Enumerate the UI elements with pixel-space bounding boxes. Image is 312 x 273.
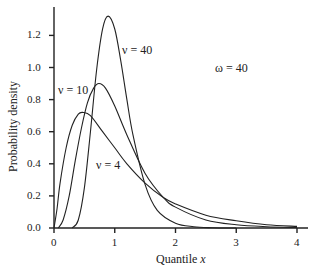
x-tick-label: 4	[294, 236, 300, 248]
y-tick-label: 0.6	[27, 125, 41, 137]
chart-plot	[0, 0, 312, 273]
y-axis-label: Probability density	[6, 72, 21, 182]
y-tick-label: 0.8	[27, 93, 41, 105]
label-nu-40: ν = 40	[122, 43, 152, 58]
y-tick-label: 1.0	[27, 61, 41, 73]
label-nu-4: ν = 4	[96, 158, 120, 173]
curve-series-1	[58, 84, 297, 228]
x-tick-label: 2	[173, 236, 179, 248]
y-tick-label: 0.4	[27, 157, 41, 169]
y-tick-label: 0.2	[27, 189, 41, 201]
curve-series-2	[72, 16, 236, 228]
y-tick-label: 1.2	[27, 28, 41, 40]
x-tick-label: 0	[51, 236, 57, 248]
y-tick-label: 0.0	[27, 221, 41, 233]
x-axis-label: Quantile x	[156, 252, 206, 267]
label-nu-10: ν = 10	[58, 83, 88, 98]
x-tick-label: 3	[233, 236, 239, 248]
x-tick-label: 1	[112, 236, 118, 248]
annotation-omega: ω = 40	[215, 61, 248, 76]
